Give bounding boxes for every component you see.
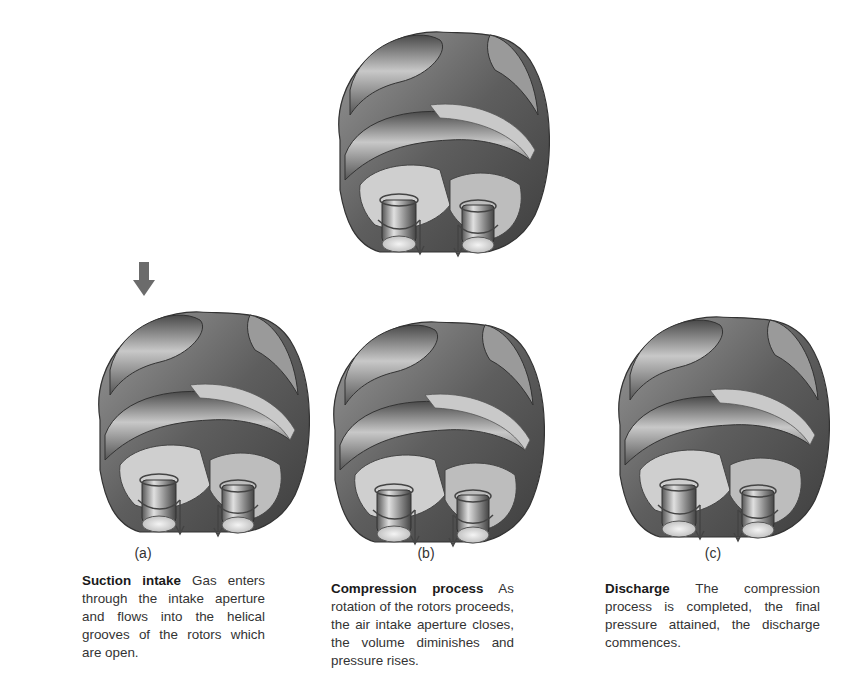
- rotor-illustration-c: [600, 305, 830, 545]
- rotor-illustration-b: [315, 310, 545, 550]
- rotor-overview-illustration: [320, 20, 550, 260]
- rotor-illustration-a: [80, 300, 310, 540]
- caption-b: Compression process As rotation of the r…: [331, 580, 514, 670]
- caption-b-title: Compression process: [331, 581, 484, 596]
- panel-label-b: (b): [406, 545, 446, 561]
- caption-a: Suction intake Gas enters through the in…: [82, 572, 265, 662]
- caption-c-title: Discharge: [605, 581, 670, 596]
- caption-a-title: Suction intake: [82, 573, 181, 588]
- caption-c: Discharge The compression process is com…: [605, 580, 820, 652]
- panel-label-c: (c): [693, 545, 733, 561]
- intake-arrow-icon: [133, 262, 155, 298]
- panel-label-a: (a): [123, 545, 163, 561]
